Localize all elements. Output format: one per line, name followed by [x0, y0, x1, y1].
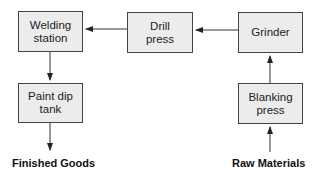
node-label: tank — [40, 103, 62, 115]
node-label: station — [34, 32, 68, 44]
node-blanking-press: Blankingpress — [238, 83, 303, 124]
node-label: Drill — [150, 20, 170, 32]
finished-goods-label: Finished Goods — [12, 157, 95, 169]
node-label: Grinder — [251, 26, 289, 39]
node-paint-dip-tank: Paint diptank — [18, 83, 83, 123]
node-label: press — [146, 33, 174, 45]
raw-materials-label: Raw Materials — [232, 157, 305, 169]
node-label: press — [256, 104, 284, 116]
node-grinder: Grinder — [238, 12, 303, 53]
node-label: Paint dip — [28, 90, 73, 102]
node-label: Blanking — [248, 91, 292, 103]
node-welding-station: Weldingstation — [18, 11, 83, 52]
node-label: Welding — [30, 19, 71, 31]
node-drill-press: Drillpress — [127, 12, 193, 53]
